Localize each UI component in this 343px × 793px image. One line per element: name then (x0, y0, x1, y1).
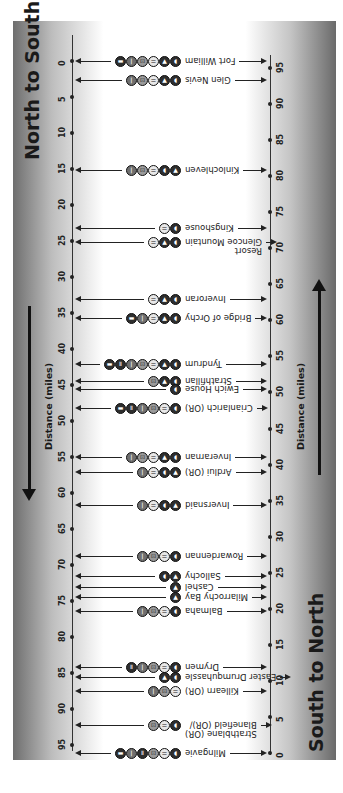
left-axis-tick-label: 50 (58, 415, 67, 426)
shop-icon: ⊡ (148, 720, 159, 731)
place-name: Tyndrum (185, 359, 222, 368)
place-name: Milarrochy Bay (185, 592, 248, 601)
left-pointer-arrow (80, 556, 133, 557)
tent-icon: ▲ (170, 571, 181, 582)
left-axis-tick-label: 45 (58, 379, 67, 390)
shop-icon: ⊡ (148, 551, 159, 562)
right-axis-label: Distance (miles) (295, 363, 306, 450)
train-icon: ◖ (159, 500, 170, 511)
right-pointer-arrow (230, 753, 262, 754)
right-pointer-arrow (238, 228, 262, 229)
place-name: Fort William (185, 56, 235, 65)
cutlery-icon: ⚌ (148, 452, 159, 463)
train-icon: ◖ (170, 384, 181, 395)
place-name: Strathblane (OR)Blanefield (OR)/ (185, 720, 257, 738)
place-name: Cashel (185, 582, 214, 591)
tent-icon: ▲ (159, 56, 170, 67)
right-axis-tick-label: 45 (276, 422, 285, 433)
place-name: Killearn (OR) (185, 686, 239, 695)
shop-icon: ⊡ (159, 686, 170, 697)
cutlery-icon: ⚌ (159, 748, 170, 759)
left-axis-tick (70, 167, 74, 171)
facility-icons: ◖▲⚌⊡ǀ▬ (115, 56, 181, 67)
left-axis-tick-label: 0 (58, 60, 67, 66)
right-axis-tick-label: 5 (276, 716, 285, 722)
left-axis-tick (70, 95, 74, 99)
pint-icon: ǀ (137, 500, 148, 511)
south-to-north-title: South to North (305, 593, 327, 752)
shop-icon: ⊡ (137, 165, 148, 176)
left-axis-tick (70, 239, 74, 243)
left-pointer-arrow (80, 691, 144, 692)
train-icon: ◖ (159, 165, 170, 176)
place-name-line: Glencoe Mountain (185, 237, 262, 246)
tent-icon: ▲ (159, 672, 170, 683)
right-axis (270, 55, 271, 755)
train-icon: ◖ (170, 452, 181, 463)
train-icon: ◖ (170, 75, 181, 86)
right-axis-tick (268, 715, 272, 719)
left-pointer-arrow (80, 753, 111, 754)
bus-icon: ▬ (104, 359, 115, 370)
right-pointer-arrow (280, 677, 286, 678)
right-pointer-arrow (257, 408, 263, 409)
right-axis-tick-label: 55 (276, 350, 285, 361)
facility-icons: ▲◖ (159, 571, 181, 582)
train-icon: ◖ (170, 359, 181, 370)
left-axis-tick-label: 25 (58, 235, 67, 246)
train-icon: ◖ (170, 56, 181, 67)
tent-icon: ▲ (159, 376, 170, 387)
left-axis-tick (70, 635, 74, 639)
train-icon: ◖ (170, 720, 181, 731)
left-axis-tick-label: 75 (58, 595, 67, 606)
cutlery-icon: ⚌ (159, 720, 170, 731)
right-pointer-arrow (255, 318, 262, 319)
shop-icon: ⊡ (137, 56, 148, 67)
pint-icon: ǀ (126, 165, 137, 176)
left-axis-tick-label: 35 (58, 307, 67, 318)
bus-icon: ▬ (115, 748, 126, 759)
left-pointer-arrow (80, 505, 133, 506)
left-pointer-arrow (80, 242, 144, 243)
place-name-line: Strathblane (OR) (185, 729, 257, 738)
left-axis-tick (70, 347, 74, 351)
right-pointer-arrow (225, 576, 262, 577)
place-name: Easter Drumquhassle (185, 672, 276, 681)
left-axis-tick (70, 59, 74, 63)
tent-icon: ▲ (170, 467, 181, 478)
left-axis-tick-label: 70 (58, 559, 67, 570)
right-pointer-arrow (236, 381, 262, 382)
right-axis-tick-label: 75 (276, 206, 285, 217)
train-icon: ◖ (159, 467, 170, 478)
facility-icons: ◖⚌⊡Ⅱǀ▬ (115, 748, 181, 759)
right-pointer-arrow (227, 611, 263, 612)
facility-icons: ◖▲⚌⊡ǀⅡ▬ (104, 359, 181, 370)
pint-icon: ǀ (137, 313, 148, 324)
cutlery-icon: ⚌ (148, 165, 159, 176)
cutlery-icon: ⚌ (148, 500, 159, 511)
pint-icon: ǀ (126, 748, 137, 759)
left-pointer-arrow (80, 228, 155, 229)
train-icon: ◖ (170, 606, 181, 617)
facility-icons: ⚌⊡ǀ (148, 686, 181, 697)
place-name: ResortGlencoe Mountain (185, 237, 262, 255)
right-axis-tick (268, 643, 272, 647)
facility-icons: ▲◖⚌ǀ (137, 467, 181, 478)
facility-icons: ◖▲ (159, 672, 181, 683)
place-name: Crianlarich (OR) (185, 403, 253, 412)
facility-icons: ◖▲⚌ (148, 237, 181, 248)
left-axis-tick-label: 90 (58, 703, 67, 714)
right-axis-tick (268, 463, 272, 467)
cutlery-icon: ⚌ (148, 467, 159, 478)
left-axis-tick-label: 20 (58, 199, 67, 210)
bed-icon: Ⅱ (126, 403, 137, 414)
place-name: Balmaha (185, 606, 223, 615)
left-axis-tick (70, 131, 74, 135)
bed-icon: Ⅱ (137, 748, 148, 759)
facility-icons: ◖▲⚌⊡ǀ (126, 75, 181, 86)
train-icon: ◖ (170, 672, 181, 683)
shop-icon: ⊡ (148, 403, 159, 414)
right-axis-tick (268, 66, 272, 70)
left-pointer-arrow (80, 457, 122, 458)
right-axis-tick (268, 607, 272, 611)
